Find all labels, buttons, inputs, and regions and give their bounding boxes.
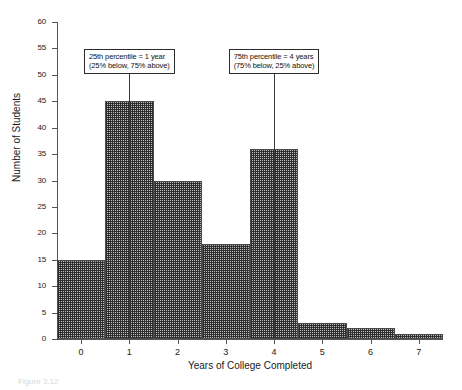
percentile-label-line2: (75% below, 25% above) <box>234 61 315 70</box>
x-tick-label: 4 <box>264 347 284 357</box>
histogram-bar <box>202 244 250 339</box>
histogram-figure: 051015202530354045505560 01234567 25th p… <box>0 0 462 390</box>
percentile-label-75: 75th percentile = 4 years(75% below, 25%… <box>229 49 320 74</box>
x-tick-mark <box>371 339 372 344</box>
x-tick-label: 3 <box>216 347 236 357</box>
x-tick-label: 6 <box>361 347 381 357</box>
x-tick-label: 0 <box>71 347 91 357</box>
histogram-bar <box>154 181 202 340</box>
y-axis-title: Number of Students <box>11 58 22 218</box>
histogram-bar <box>57 260 105 339</box>
x-tick-label: 7 <box>409 347 429 357</box>
y-tick-mark <box>52 339 58 340</box>
y-tick-label: 35 <box>20 150 46 158</box>
y-tick-label: 25 <box>20 203 46 211</box>
x-axis-spine <box>57 339 443 340</box>
y-tick-label: 10 <box>20 282 46 290</box>
x-tick-mark <box>274 339 275 344</box>
y-tick-label: 5 <box>20 309 46 317</box>
x-tick-label: 1 <box>119 347 139 357</box>
x-tick-label: 2 <box>168 347 188 357</box>
percentile-line-75 <box>274 68 275 339</box>
histogram-bar <box>347 328 395 339</box>
y-tick-label: 45 <box>20 97 46 105</box>
y-tick-label: 0 <box>20 335 46 343</box>
x-tick-mark <box>322 339 323 344</box>
histogram-bar <box>298 323 346 339</box>
y-tick-label: 30 <box>20 177 46 185</box>
percentile-label-line1: 25th percentile = 1 year <box>89 52 170 61</box>
x-axis-title: Years of College Completed <box>57 360 443 371</box>
y-tick-label: 50 <box>20 71 46 79</box>
percentile-line-25 <box>129 68 130 339</box>
x-tick-mark <box>226 339 227 344</box>
x-tick-mark <box>129 339 130 344</box>
figure-caption: Figure 3.12 <box>18 377 58 386</box>
x-tick-mark <box>178 339 179 344</box>
histogram-bar <box>395 334 443 339</box>
percentile-label-line2: (25% below, 75% above) <box>89 61 170 70</box>
x-tick-mark <box>419 339 420 344</box>
y-tick-label: 40 <box>20 124 46 132</box>
y-tick-label: 55 <box>20 44 46 52</box>
percentile-label-25: 25th percentile = 1 year(25% below, 75% … <box>84 49 175 74</box>
x-tick-label: 5 <box>312 347 332 357</box>
y-tick-label: 20 <box>20 229 46 237</box>
y-tick-label: 60 <box>20 18 46 26</box>
y-tick-label: 15 <box>20 256 46 264</box>
x-tick-mark <box>81 339 82 344</box>
percentile-label-line1: 75th percentile = 4 years <box>234 52 315 61</box>
